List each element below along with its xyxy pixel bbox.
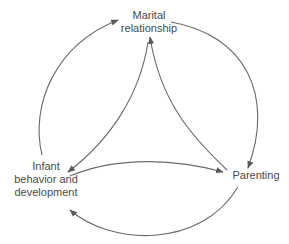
node-parenting-line1: Parenting [226,169,286,182]
node-infant-line1: Infant [10,160,82,173]
arrow-infant-to-parenting-inner [70,162,223,176]
arrow-parenting-to-infant-outer [70,187,238,236]
node-marital-relationship: Marital relationship [108,9,190,35]
arrow-marital-to-parenting-outer [171,22,258,168]
arrow-parenting-to-marital-inner [150,37,227,170]
node-infant-line2: behavior and [10,173,82,186]
node-marital-line2: relationship [108,22,190,35]
node-parenting: Parenting [226,169,286,182]
node-marital-line1: Marital [108,9,190,22]
node-infant-line3: development [10,186,82,199]
triad-diagram [0,0,289,244]
node-infant-behavior: Infant behavior and development [10,160,82,199]
arrow-marital-to-infant-inner [68,42,148,172]
